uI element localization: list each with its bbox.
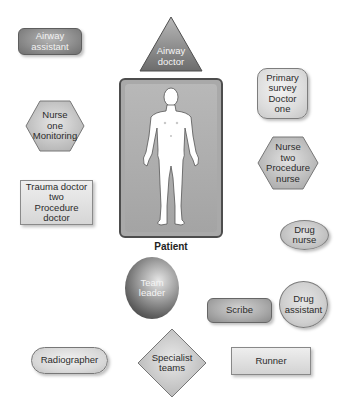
airway-assistant-node: Airway assistant <box>18 28 82 55</box>
airway-assistant-label-1: Airway <box>31 31 69 42</box>
nurse-two-label-1: Nurse <box>266 142 310 153</box>
specialist-teams-node: Specialist teams <box>137 328 207 398</box>
primary-survey-label-2: survey <box>266 83 299 94</box>
nurse-two-label-3: Procedure <box>266 163 310 174</box>
primary-survey-doctor-node: Primary survey Doctor one <box>257 68 308 119</box>
drug-nurse-label-2: nurse <box>293 235 317 246</box>
specialist-teams-label-2: teams <box>152 363 193 374</box>
airway-doctor-node: Airway doctor <box>139 16 203 72</box>
airway-doctor-label-2: doctor <box>139 57 203 68</box>
airway-doctor-label-1: Airway <box>139 46 203 57</box>
patient-box <box>119 78 223 238</box>
drug-assistant-node: Drug assistant <box>279 281 328 328</box>
scribe-node: Scribe <box>207 298 272 323</box>
trauma-doctor-label-2: two <box>21 192 92 203</box>
drug-assistant-label-2: assistant <box>285 305 323 316</box>
radiographer-node: Radiographer <box>31 347 108 374</box>
team-leader-node: Team leader <box>125 257 179 319</box>
nurse-two-node: Nurse two Procedure nurse <box>257 136 319 190</box>
nurse-one-node: Nurse one Monitoring <box>25 100 85 152</box>
airway-assistant-label-2: assistant <box>31 42 69 53</box>
drug-nurse-node: Drug nurse <box>280 220 329 250</box>
team-leader-label-2: leader <box>139 288 165 299</box>
scribe-label: Scribe <box>226 305 253 316</box>
patient-label: Patient <box>119 241 223 252</box>
runner-label: Runner <box>255 356 286 367</box>
drug-assistant-label-1: Drug <box>285 294 323 305</box>
radiographer-label: Radiographer <box>41 355 99 366</box>
trauma-doctor-node: Trauma doctor two Procedure doctor <box>20 180 93 225</box>
trauma-doctor-label-3: Procedure doctor <box>21 203 92 224</box>
nurse-one-label-3: Monitoring <box>33 131 77 142</box>
nurse-two-label-4: nurse <box>266 174 310 185</box>
runner-node: Runner <box>231 347 311 375</box>
primary-survey-label-4: one <box>266 104 299 115</box>
human-body-icon <box>121 80 221 236</box>
